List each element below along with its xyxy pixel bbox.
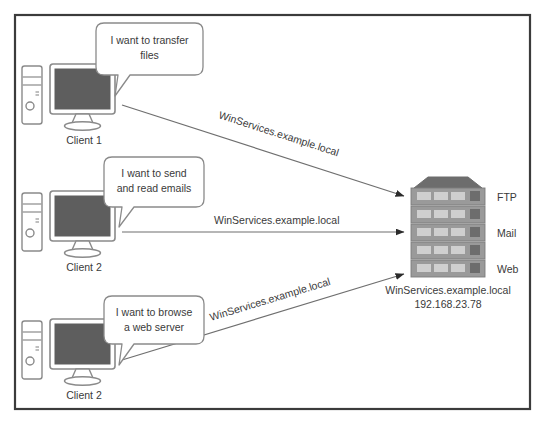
client-1-bubble-line-1: I want to transfer (110, 34, 189, 46)
server-unit-4 (411, 242, 485, 259)
server-service-label-web: Web (497, 263, 519, 275)
server-service-label-ftp: FTP (497, 191, 517, 203)
server-unit-3 (411, 224, 485, 241)
client-2-mail-bubble-line-2: and read emails (117, 182, 192, 194)
server-hostname: WinServices.example.local (385, 284, 510, 296)
network-diagram: WinServices.example.local WinServices.ex… (0, 0, 545, 428)
diagram-canvas: WinServices.example.local WinServices.ex… (0, 0, 545, 428)
client-2-mail-bubble-line-1: I want to send (121, 167, 187, 179)
client-2-mail-label: Client 2 (66, 261, 102, 273)
server-ip-address: 192.168.23.78 (414, 298, 481, 310)
server-unit-2 (411, 206, 485, 223)
server-unit-5 (411, 260, 485, 277)
server-service-label-mail: Mail (497, 227, 516, 239)
server-unit-1 (411, 188, 485, 205)
client-2-web-bubble-line-2: a web server (124, 321, 185, 333)
connection-mail-label: WinServices.example.local (214, 214, 339, 226)
client-1-bubble-line-2: files (140, 49, 159, 61)
client-2-web-label: Client 2 (66, 389, 102, 401)
client-2-web-bubble-line-1: I want to browse (116, 306, 193, 318)
client-1-label: Client 1 (66, 134, 102, 146)
